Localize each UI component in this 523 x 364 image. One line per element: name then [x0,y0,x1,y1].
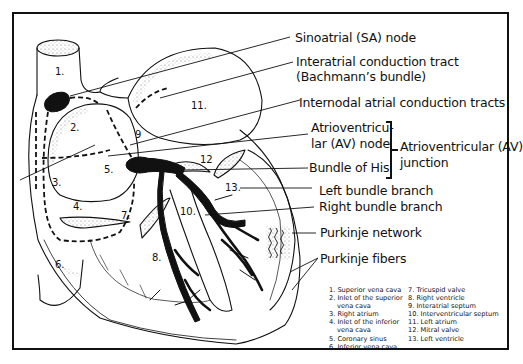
label-10: 10. [180,207,196,217]
label-13: 13. [225,183,241,193]
left-bundle-branch [176,170,245,228]
label-5: 5. [104,165,114,175]
callout-right-bundle-branch: Right bundle branch [319,199,442,215]
left-atrium [100,48,262,145]
label-8: 8. [152,253,162,263]
legend-item: 1. Superior vena cava [329,286,403,294]
label-1: 1. [55,67,65,77]
callout-bachmanns-bundle: (Bachmann’s bundle) [296,70,426,84]
purkinje-network [266,226,290,260]
legend-item: 13. Left ventricle [408,335,499,343]
label-9: 9 [135,130,141,140]
legend-item: 8. Right ventricle [408,294,499,302]
callout-bundle-of-his: Bundle of His [309,161,389,175]
callout-left-bundle-branch: Left bundle branch [319,183,433,199]
legend-item: 5. Coronary sinus [329,335,403,343]
legend-item: vena cava [329,302,403,310]
callout-purkinje-network: Purkinje network [320,225,422,241]
legend-item: 7. Tricuspid valve [408,286,499,294]
sa-node [41,88,72,115]
label-7: 7. [121,211,131,221]
legend-item: 12. Mitral valve [408,326,499,334]
callout-interatrial-tract: Interatrial conduction tract [296,55,459,69]
legend-item: 11. Left atrium [408,318,499,326]
legend-left: 1. Superior vena cava 2. Inlet of the su… [329,286,403,351]
right-atrium [48,104,138,202]
callout-sa-node: Sinoatrial (SA) node [295,31,416,45]
legend-right: 7. Tricuspid valve 8. Right ventricle 9.… [408,286,499,343]
tricuspid-valve [60,217,130,228]
callout-av-node-line2: lar (AV) node [311,137,390,151]
label-4: 4. [73,202,83,212]
legend-item: 4. Inlet of the inferior [329,318,403,326]
label-6: 6. [55,260,65,270]
legend-item: 3. Right atrium [329,310,403,318]
interventricular-septum [170,185,232,311]
label-3: 3. [52,178,62,188]
label-11: 11. [191,101,207,111]
callout-av-node-line1: Atrioventricu- [311,121,394,135]
legend-item: 9. Interatrial septum [408,302,499,310]
callout-av-junction-line1: Atrioventricular (AV) [400,140,523,154]
legend-item: 10. Interventricular septum [408,310,499,318]
label-2: 2. [70,123,80,133]
legend-item: 2. Inlet of the superior [329,294,403,302]
callout-purkinje-fibers: Purkinje fibers [320,251,406,267]
superior-vena-cava [37,40,100,95]
callout-internodal-tracts: Internodal atrial conduction tracts [299,96,505,110]
label-12: 12 [200,155,213,165]
legend-item: 6. Inferior vena cava [329,343,403,351]
callout-av-junction-line2: junction [400,156,449,170]
legend-item: vena cava [329,326,403,334]
